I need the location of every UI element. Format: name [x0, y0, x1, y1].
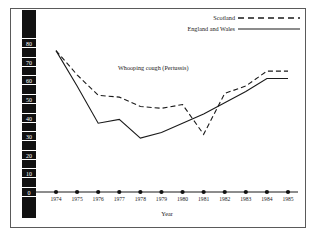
- chart-annotation: Whooping cough (Pertussis): [118, 64, 188, 71]
- x-axis-tick-1979: 1979: [150, 196, 172, 202]
- x-axis-dot: [223, 190, 227, 194]
- x-axis-dot: [180, 190, 184, 194]
- plot-area: [36, 10, 298, 218]
- x-axis-tick-1976: 1976: [87, 196, 109, 202]
- x-axis-dot: [117, 190, 121, 194]
- y-axis-tick-80: 80: [22, 38, 36, 48]
- series-canvas: [36, 10, 298, 218]
- chart-figure: Percentage of children immunised by end …: [0, 0, 310, 233]
- x-axis-tick-1975: 1975: [66, 196, 88, 202]
- legend-swatch-solid-icon: [238, 26, 300, 32]
- x-axis-dot: [75, 190, 79, 194]
- x-axis-tick-1977: 1977: [108, 196, 130, 202]
- x-axis-tick-1982: 1982: [214, 196, 236, 202]
- x-axis-tick-1980: 1980: [172, 196, 194, 202]
- x-axis-dot: [54, 190, 58, 194]
- legend-label-scotland: Scotland: [213, 14, 238, 21]
- y-axis-tick-60: 60: [22, 75, 36, 85]
- y-axis-tick-20: 20: [22, 150, 36, 160]
- x-axis-tick-1983: 1983: [235, 196, 257, 202]
- y-axis-tick-0: 0: [22, 187, 36, 197]
- x-axis-tick-1978: 1978: [129, 196, 151, 202]
- x-axis-dot: [265, 190, 269, 194]
- x-axis-dot: [244, 190, 248, 194]
- y-axis-tick-10: 10: [22, 168, 36, 178]
- y-axis-tick-70: 70: [22, 57, 36, 67]
- legend-item-england-and-wales: England and Wales: [150, 23, 300, 34]
- x-axis-dot: [159, 190, 163, 194]
- x-axis-tick-1974: 1974: [45, 196, 67, 202]
- x-axis-title: Year: [36, 210, 298, 217]
- x-axis-dot: [138, 190, 142, 194]
- x-axis-dot: [202, 190, 206, 194]
- legend-swatch-dashed-icon: [238, 15, 300, 21]
- legend: Scotland England and Wales: [150, 12, 300, 34]
- x-axis-tick-1981: 1981: [193, 196, 215, 202]
- y-axis-tick-50: 50: [22, 94, 36, 104]
- x-axis-tick-1984: 1984: [256, 196, 278, 202]
- x-axis-tick-1985: 1985: [277, 196, 299, 202]
- y-axis-tick-30: 30: [22, 131, 36, 141]
- x-axis-dot: [286, 190, 290, 194]
- x-axis-dot: [96, 190, 100, 194]
- legend-label-england-and-wales: England and Wales: [188, 25, 239, 32]
- y-axis-tick-40: 40: [22, 113, 36, 123]
- legend-item-scotland: Scotland: [150, 12, 300, 23]
